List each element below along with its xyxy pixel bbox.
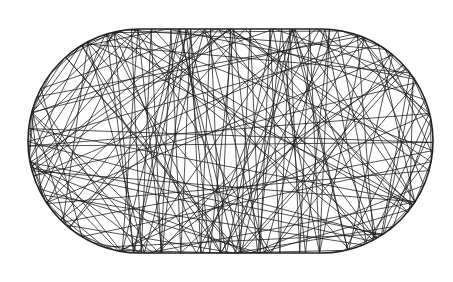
- stadium-diagram: [0, 0, 453, 282]
- stadium-billiard-figure: [0, 0, 453, 282]
- billiard-trajectory: [28, 29, 433, 253]
- trajectory-lines: [28, 29, 433, 253]
